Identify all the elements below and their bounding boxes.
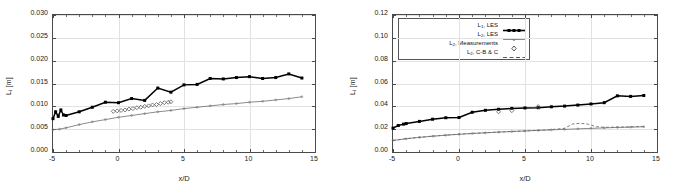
series-l2-c-b-c: [393, 123, 644, 140]
series-layer: [53, 15, 315, 152]
y-tick-mark: [312, 152, 315, 153]
figure-two-panel-line-charts: Li [m] x/D 0.0000.0050.0100.0150.0200.02…: [0, 0, 684, 194]
chart-panel-right: Li [m] L1, LESL2, LESL2, MeasurementsL2,…: [342, 0, 684, 194]
x-tick-label: 10: [235, 155, 263, 162]
x-tick-label: 0: [444, 155, 472, 162]
y-tick-label: 0.025: [8, 32, 48, 39]
y-tick-label: 0.10: [348, 32, 388, 39]
x-tick-label: 0: [104, 155, 132, 162]
y-tick-label: 0.02: [348, 123, 388, 130]
y-tick-mark: [654, 152, 657, 153]
series-layer: [393, 15, 657, 152]
y-tick-label: 0.00: [348, 146, 388, 153]
right-x-axis-label: x/D: [392, 174, 658, 183]
x-tick-label: 5: [169, 155, 197, 162]
x-tick-mark: [315, 149, 316, 152]
y-tick-label: 0.030: [8, 9, 48, 16]
y-tick-label: 0.12: [348, 9, 388, 16]
left-plot-area: [52, 14, 316, 153]
x-tick-label: 5: [510, 155, 538, 162]
y-tick-mark: [53, 152, 56, 153]
series-l1-les: [52, 72, 304, 120]
y-tick-mark: [393, 152, 396, 153]
y-tick-label: 0.08: [348, 55, 388, 62]
series-l2-les: [392, 126, 645, 142]
x-tick-label: -5: [38, 155, 66, 162]
x-tick-label: -5: [378, 155, 406, 162]
y-tick-label: 0.06: [348, 78, 388, 85]
x-tick-label: 15: [300, 155, 328, 162]
chart-panel-left: Li [m] x/D 0.0000.0050.0100.0150.0200.02…: [0, 0, 342, 194]
y-tick-label: 0.010: [8, 100, 48, 107]
x-tick-label: 10: [576, 155, 604, 162]
x-tick-mark: [657, 15, 658, 18]
left-x-axis-label: x/D: [52, 174, 316, 183]
x-tick-label: 15: [642, 155, 670, 162]
y-tick-label: 0.04: [348, 100, 388, 107]
y-tick-label: 0.000: [8, 146, 48, 153]
x-tick-mark: [657, 149, 658, 152]
series-l2-les: [52, 96, 303, 131]
y-tick-label: 0.020: [8, 55, 48, 62]
series-l1-les: [392, 94, 646, 130]
right-plot-area: L1, LESL2, LESL2, MeasurementsL2, C-B & …: [392, 14, 658, 153]
y-tick-label: 0.005: [8, 123, 48, 130]
x-tick-mark: [315, 15, 316, 18]
y-tick-label: 0.015: [8, 78, 48, 85]
